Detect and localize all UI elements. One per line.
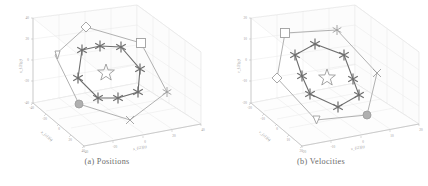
z-tick-4: -40: [24, 101, 29, 105]
z-tick-4: -20: [242, 101, 247, 105]
marker-triangle-down: [55, 51, 60, 59]
z-tick-3: -10: [242, 79, 247, 83]
marker-circle-filled: [75, 100, 83, 108]
y-tick-3: 20: [69, 138, 73, 142]
figure-container: 40 20 0 -20 -40 x_{i3}(t) -40 -20 0 20 4…: [0, 0, 428, 186]
x-axis-title: x_{i2}(t): [131, 144, 147, 152]
y-axis-title: x_{i1}(t): [39, 129, 54, 143]
caption-velocities: (b) Velocities: [297, 157, 345, 166]
z-tick-3: -20: [24, 79, 29, 83]
plot-area-positions: 40 20 0 -20 -40 x_{i3}(t) -40 -20 0 20 4…: [0, 0, 214, 156]
x-tick-0: -40: [84, 150, 89, 154]
y-tick-2: 0: [58, 127, 60, 131]
caption-positions: (a) Positions: [84, 157, 129, 166]
y-tick-0: -40: [29, 106, 34, 110]
marker-circle-filled: [363, 111, 371, 119]
z-axis-title: v_{i3}(t): [236, 58, 241, 73]
x-tick-4: 40: [201, 128, 205, 132]
x-tick-0: -20: [302, 150, 307, 154]
z-tick-0: 40: [26, 16, 30, 20]
plot-svg-positions: 40 20 0 -20 -40 x_{i3}(t) -40 -20 0 20 4…: [0, 0, 214, 156]
x-tick-1: -20: [113, 145, 118, 149]
subfigure-velocities: 20 10 0 -10 -20 v_{i3}(t) -20 -10 0 10 2…: [214, 0, 428, 186]
x-tick-3: 10: [390, 134, 394, 138]
marker-square: [137, 39, 146, 48]
y-tick-2: 0: [276, 127, 278, 131]
axes-3d-velocities: 20 10 0 -10 -20 v_{i3}(t) -20 -10 0 10 2…: [236, 5, 423, 154]
y-tick-1: -20: [42, 117, 47, 121]
z-axis-ticks: [249, 18, 251, 103]
x-tick-4: 20: [419, 128, 423, 132]
y-axis-title: v_{i1}(t): [258, 129, 272, 142]
subfigure-positions: 40 20 0 -20 -40 x_{i3}(t) -40 -20 0 20 4…: [0, 0, 214, 186]
z-tick-1: 20: [26, 37, 30, 41]
plot-area-velocities: 20 10 0 -10 -20 v_{i3}(t) -20 -10 0 10 2…: [214, 0, 428, 156]
y-tick-1: -10: [260, 117, 265, 121]
z-tick-0: 20: [244, 16, 248, 20]
z-tick-2: 0: [245, 58, 247, 62]
x-tick-3: 20: [172, 134, 176, 138]
y-tick-0: -20: [247, 106, 252, 110]
y-tick-3: 10: [287, 138, 291, 142]
marker-square: [281, 29, 290, 38]
x-tick-1: -10: [331, 145, 336, 149]
z-axis-title: x_{i3}(t): [18, 58, 23, 74]
plot-svg-velocities: 20 10 0 -10 -20 v_{i3}(t) -20 -10 0 10 2…: [214, 0, 428, 156]
z-tick-1: 10: [244, 37, 248, 41]
x-axis-title: v_{i2}(t): [350, 144, 365, 152]
z-tick-2: 0: [27, 58, 29, 62]
